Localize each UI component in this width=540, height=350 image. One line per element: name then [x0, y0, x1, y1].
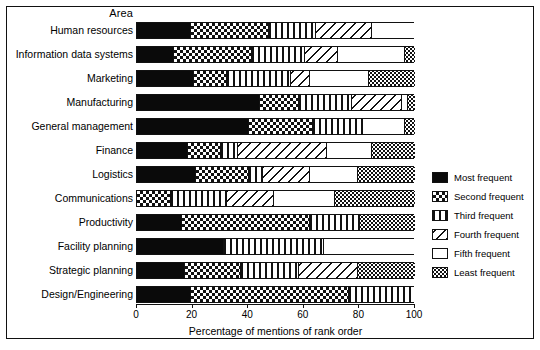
- bar-segment-second: [137, 191, 170, 206]
- bar-segment-fifth: [323, 239, 415, 254]
- chart-row: Finance: [136, 142, 414, 159]
- category-label: General management: [0, 118, 133, 135]
- stacked-bar: [136, 286, 414, 303]
- bar-segment-third: [223, 239, 323, 254]
- bar-segment-fourth: [315, 23, 371, 38]
- plot-area: Human resourcesInformation data systemsM…: [136, 22, 414, 304]
- category-label: Productivity: [0, 214, 133, 231]
- bar-segment-fourth: [298, 263, 356, 278]
- bar-segment-third: [170, 191, 226, 206]
- bar-segment-fourth: [237, 143, 326, 158]
- bar-segment-fourth: [262, 167, 309, 182]
- bar-segment-most: [137, 23, 190, 38]
- legend-swatch-icon: [432, 210, 448, 221]
- category-label: Communications: [0, 190, 133, 207]
- legend-swatch-icon: [432, 191, 448, 202]
- bar-segment-third: [240, 263, 298, 278]
- stacked-bar: [136, 238, 414, 255]
- bar-segment-third: [220, 143, 237, 158]
- bar-segment-fourth: [304, 47, 337, 62]
- chart-row: Facility planning: [136, 238, 414, 255]
- bar-segment-most: [137, 119, 248, 134]
- legend-label: Least frequent: [454, 267, 515, 278]
- legend-swatch-icon: [432, 267, 448, 278]
- x-tick-label: 0: [121, 309, 151, 320]
- bar-segment-least: [357, 167, 415, 182]
- bar-segment-fourth: [226, 191, 273, 206]
- x-tick-label: 60: [288, 309, 318, 320]
- chart-row: Strategic planning: [136, 262, 414, 279]
- bar-segment-least: [371, 143, 415, 158]
- chart-row: Manufacturing: [136, 94, 414, 111]
- x-axis-label: Percentage of mentions of rank order: [136, 325, 415, 337]
- bar-segment-third: [268, 23, 315, 38]
- bar-segment-third: [309, 215, 359, 230]
- category-label: Information data systems: [0, 46, 133, 63]
- bar-segment-second: [184, 263, 240, 278]
- bar-segment-fourth: [290, 71, 309, 86]
- bar-segment-most: [137, 143, 187, 158]
- bar-segment-least: [404, 47, 415, 62]
- bar-segment-fifth: [337, 47, 404, 62]
- category-label: Manufacturing: [0, 94, 133, 111]
- x-tick-mark: [303, 304, 304, 308]
- legend-label: Most frequent: [454, 172, 512, 183]
- legend-label: Fourth frequent: [454, 229, 519, 240]
- bar-segment-third: [251, 47, 304, 62]
- bar-segment-second: [181, 215, 309, 230]
- stacked-bar: [136, 142, 414, 159]
- bar-segment-third: [312, 119, 362, 134]
- x-axis-line: [136, 304, 415, 305]
- stacked-bar: [136, 46, 414, 63]
- category-label: Facility planning: [0, 238, 133, 255]
- legend-swatch-icon: [432, 248, 448, 259]
- x-tick-mark: [192, 304, 193, 308]
- chart-row: Productivity: [136, 214, 414, 231]
- x-tick-mark: [136, 304, 137, 308]
- legend-item-most: Most frequent: [432, 168, 536, 187]
- bar-segment-second: [195, 167, 248, 182]
- bar-segment-fourth: [351, 95, 401, 110]
- legend-item-fifth: Fifth frequent: [432, 244, 536, 263]
- bar-segment-fifth: [326, 143, 370, 158]
- bar-segment-most: [137, 95, 259, 110]
- stacked-bar: [136, 190, 414, 207]
- bar-segment-third: [348, 287, 415, 302]
- bar-segment-fifth: [309, 167, 356, 182]
- x-tick-label: 100: [399, 309, 429, 320]
- legend-label: Fifth frequent: [454, 248, 510, 259]
- bar-segment-second: [173, 47, 251, 62]
- bar-segment-second: [248, 119, 312, 134]
- chart-legend: Most frequentSecond frequentThird freque…: [432, 168, 536, 282]
- chart-row: Design/Engineering: [136, 286, 414, 303]
- stacked-bar: [136, 214, 414, 231]
- stacked-bar: [136, 94, 414, 111]
- category-label: Logistics: [0, 166, 133, 183]
- bar-segment-second: [190, 287, 348, 302]
- bar-segment-least: [407, 95, 415, 110]
- bar-segment-fifth: [273, 191, 334, 206]
- x-tick-mark: [414, 304, 415, 308]
- category-label: Marketing: [0, 70, 133, 87]
- bar-segment-most: [137, 263, 184, 278]
- bar-segment-least: [404, 119, 415, 134]
- area-column-header: Area: [0, 7, 133, 19]
- bar-segment-most: [137, 47, 173, 62]
- bar-segment-most: [137, 167, 195, 182]
- chart-row: Logistics: [136, 166, 414, 183]
- legend-swatch-icon: [432, 229, 448, 240]
- bar-segment-most: [137, 71, 193, 86]
- bar-segment-least: [359, 215, 415, 230]
- frame-border-bottom: [6, 338, 534, 339]
- bar-segment-fifth: [362, 119, 404, 134]
- x-tick-mark: [247, 304, 248, 308]
- bar-segment-fifth: [309, 71, 367, 86]
- legend-item-least: Least frequent: [432, 263, 536, 282]
- bar-segment-second: [187, 143, 220, 158]
- legend-swatch-icon: [432, 172, 448, 183]
- chart-row: Marketing: [136, 70, 414, 87]
- x-tick-label: 40: [232, 309, 262, 320]
- stacked-bar: [136, 262, 414, 279]
- legend-item-fourth: Fourth frequent: [432, 225, 536, 244]
- chart-row: General management: [136, 118, 414, 135]
